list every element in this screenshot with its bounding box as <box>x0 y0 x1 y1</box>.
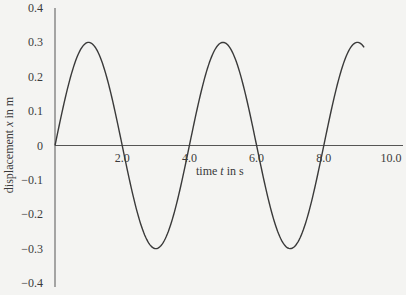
y-tick-label: −0.2 <box>21 207 43 221</box>
y-axis-label-suffix: in m <box>2 96 16 121</box>
x-tick-label: 8.0 <box>316 151 331 165</box>
x-axis-label: time t in s <box>196 164 244 178</box>
x-axis-label-prefix: time <box>196 164 220 178</box>
y-tick-label: 0.2 <box>28 70 43 84</box>
y-tick-label: 0.4 <box>28 1 43 15</box>
y-tick-label: 0 <box>37 139 43 153</box>
y-tick-label: −0.4 <box>21 276 43 290</box>
y-tick-label: 0.1 <box>28 104 43 118</box>
y-tick-label: −0.3 <box>21 242 43 256</box>
y-axis-label: displacement x in m <box>2 96 16 193</box>
y-tick-label: −0.1 <box>21 173 43 187</box>
x-tick-label: 6.0 <box>249 151 264 165</box>
x-axis-label-suffix: in s <box>224 164 244 178</box>
x-tick-label: 2.0 <box>115 151 130 165</box>
y-tick-label: 0.3 <box>28 35 43 49</box>
y-axis-label-prefix: displacement <box>2 127 16 193</box>
x-tick-label: 10.0 <box>381 151 402 165</box>
displacement-time-chart: 0.40.30.20.10−0.1−0.2−0.3−0.4 2.04.06.08… <box>0 0 406 295</box>
x-tick-label: 4.0 <box>182 151 197 165</box>
y-tick-labels: 0.40.30.20.10−0.1−0.2−0.3−0.4 <box>21 1 43 290</box>
